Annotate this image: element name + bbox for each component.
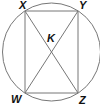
circle-rectangle-diagram: X Y K W Z (0, 0, 100, 108)
label-z: Z (78, 94, 87, 106)
label-w: W (11, 93, 23, 105)
label-y: Y (79, 0, 88, 11)
label-x: X (18, 0, 27, 11)
label-k: K (47, 32, 56, 44)
